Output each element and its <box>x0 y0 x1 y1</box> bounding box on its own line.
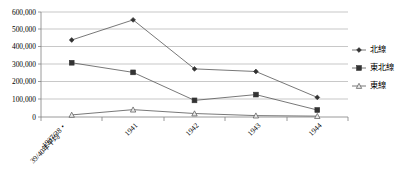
series-北線 <box>69 17 319 99</box>
y-tick-label: 100,000 <box>12 95 36 104</box>
chart-canvas: 600,000 500,000 400,000 300,000 200,000 … <box>0 0 402 177</box>
data-point-東北線-1 <box>131 70 136 75</box>
data-point-北線-3 <box>254 69 259 74</box>
data-point-北線-0 <box>69 38 74 43</box>
series-line-北線 <box>72 20 318 98</box>
y-tick-label: 500,000 <box>12 25 36 34</box>
legend-item-北線[interactable]: 北線 <box>352 44 386 54</box>
x-tick-label-1942: 1942 <box>184 121 201 138</box>
x-tick-label-1944: 1944 <box>307 121 324 138</box>
data-point-東北線-2 <box>192 98 197 103</box>
series-layer <box>69 17 320 118</box>
y-tick-label: 600,000 <box>12 8 36 17</box>
y-tick-label: 300,000 <box>12 60 36 69</box>
gridlines <box>41 12 348 99</box>
data-point-東北線-3 <box>254 92 259 97</box>
legend-label-東北線: 東北線 <box>370 62 394 72</box>
y-axis-tick-labels: 600,000 500,000 400,000 300,000 200,000 … <box>12 8 36 122</box>
chart-legend: 北線東北線東線 <box>352 44 394 90</box>
data-point-東北線-0 <box>69 60 74 65</box>
data-point-東北線-4 <box>315 108 320 113</box>
legend-marker-diamond-icon <box>357 48 362 53</box>
x-axis-tick-labels: 1937/38・ 39/40年平均 1941 1942 1943 1944 <box>28 121 323 165</box>
x-tick-label-1943: 1943 <box>246 121 263 138</box>
legend-item-東線[interactable]: 東線 <box>352 80 386 90</box>
y-tick-label: 0 <box>32 113 36 122</box>
legend-label-北線: 北線 <box>370 44 386 54</box>
legend-label-東線: 東線 <box>370 80 386 90</box>
legend-item-東北線[interactable]: 東北線 <box>352 62 394 72</box>
x-tick-label-1941: 1941 <box>123 121 140 138</box>
y-tick-label: 200,000 <box>12 77 36 86</box>
legend-marker-square-icon <box>357 66 362 71</box>
axes <box>38 12 348 121</box>
y-tick-label: 400,000 <box>12 42 36 51</box>
line-chart: 600,000 500,000 400,000 300,000 200,000 … <box>0 0 402 177</box>
